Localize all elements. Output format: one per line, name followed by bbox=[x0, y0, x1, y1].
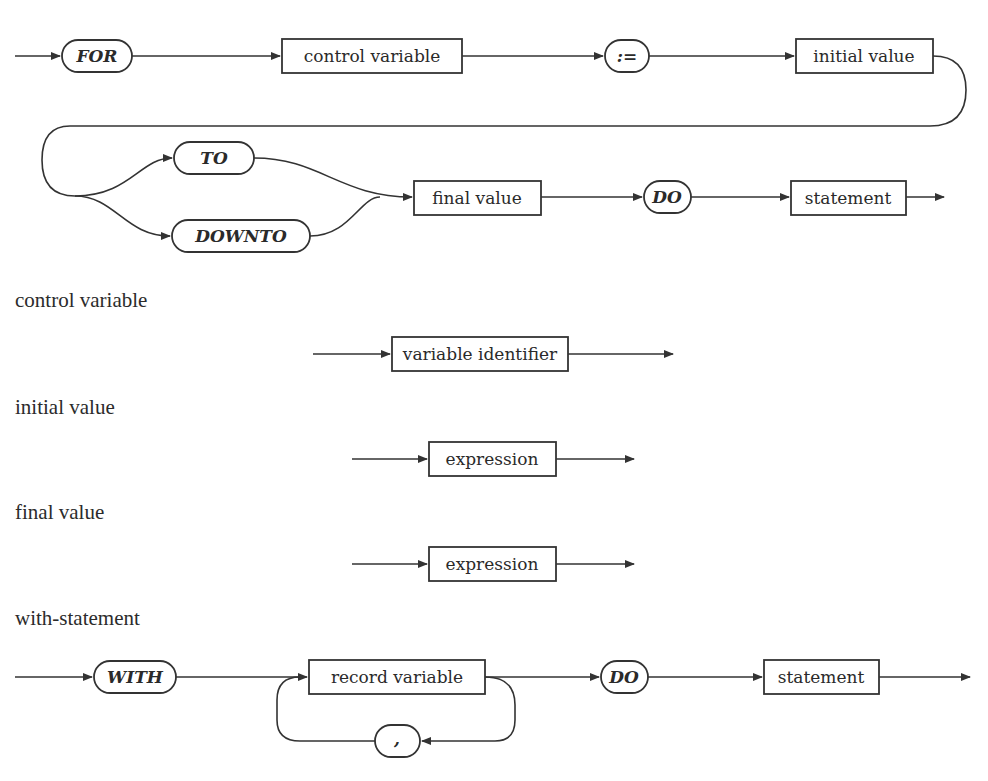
svg-text:WITH: WITH bbox=[107, 667, 164, 687]
svg-text::=: := bbox=[617, 46, 638, 66]
keyword-to: TO bbox=[174, 142, 254, 174]
svg-text:control variable: control variable bbox=[304, 46, 441, 66]
keyword-comma: , bbox=[375, 725, 420, 757]
svg-text:statement: statement bbox=[778, 667, 865, 687]
svg-text:DOWNTO: DOWNTO bbox=[194, 226, 287, 246]
svg-text:,: , bbox=[393, 729, 400, 749]
keyword-downto: DOWNTO bbox=[172, 220, 310, 252]
control-variable-diagram: variable identifier bbox=[313, 337, 673, 371]
initial-value-diagram: expression bbox=[352, 442, 634, 476]
svg-text:FOR: FOR bbox=[75, 46, 117, 66]
for-statement-diagram: FOR control variable := initial value TO bbox=[15, 39, 966, 252]
box-final-value: final value bbox=[414, 181, 541, 215]
box-initial-value: initial value bbox=[796, 39, 933, 73]
svg-text:TO: TO bbox=[200, 148, 228, 168]
svg-text:variable identifier: variable identifier bbox=[402, 344, 558, 364]
box-expression-final: expression bbox=[429, 547, 556, 581]
svg-text:expression: expression bbox=[446, 449, 539, 469]
svg-text:initial value: initial value bbox=[813, 46, 914, 66]
box-variable-identifier: variable identifier bbox=[392, 337, 568, 371]
svg-text:DO: DO bbox=[651, 187, 682, 207]
keyword-do: DO bbox=[644, 181, 691, 213]
title-control-variable: control variable bbox=[15, 288, 147, 313]
keyword-do-with: DO bbox=[601, 661, 648, 693]
box-control-variable: control variable bbox=[282, 39, 462, 73]
title-final-value: final value bbox=[15, 500, 104, 525]
svg-text:record variable: record variable bbox=[331, 667, 463, 687]
keyword-for: FOR bbox=[62, 40, 132, 72]
svg-text:DO: DO bbox=[608, 667, 639, 687]
svg-text:final value: final value bbox=[432, 188, 521, 208]
with-statement-diagram: WITH record variable , DO statement bbox=[15, 660, 970, 757]
keyword-with: WITH bbox=[94, 661, 176, 693]
box-expression-initial: expression bbox=[429, 442, 556, 476]
title-initial-value: initial value bbox=[15, 395, 115, 420]
syntax-diagrams: FOR control variable := initial value TO bbox=[0, 0, 988, 781]
box-record-variable: record variable bbox=[309, 660, 485, 694]
title-with-statement: with-statement bbox=[15, 606, 140, 631]
box-statement-with: statement bbox=[764, 660, 879, 694]
box-statement: statement bbox=[791, 181, 906, 215]
final-value-diagram: expression bbox=[352, 547, 634, 581]
svg-text:expression: expression bbox=[446, 554, 539, 574]
keyword-assign: := bbox=[605, 40, 649, 72]
svg-text:statement: statement bbox=[805, 188, 892, 208]
